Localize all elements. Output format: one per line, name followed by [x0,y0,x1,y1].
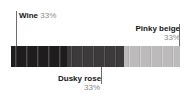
callout-pinky-beige-percent: 33% [136,33,180,42]
callout-wine-name: Wine [19,11,38,20]
leader-line-dusky-rose [101,67,102,84]
callout-wine-percent: 33% [40,11,56,20]
callout-dusky-rose-name: Dusky rose [58,74,101,83]
color-proportion-bar [11,46,180,67]
callout-pinky-beige: Pinky beige 33% [136,24,180,42]
callout-wine: Wine 33% [19,11,56,20]
bar-segment-pinky-beige [124,46,180,67]
leader-line-wine [16,11,17,46]
callout-dusky-rose-percent: 33% [58,83,100,92]
callout-dusky-rose: Dusky rose 33% [58,74,100,92]
bar-segment-wine [11,46,67,67]
callout-pinky-beige-name: Pinky beige [136,24,180,33]
bar-segment-dusky-rose [67,46,123,67]
color-palette-proportion-widget: Wine 33% Pinky beige 33% Dusky rose 33% [0,0,190,98]
